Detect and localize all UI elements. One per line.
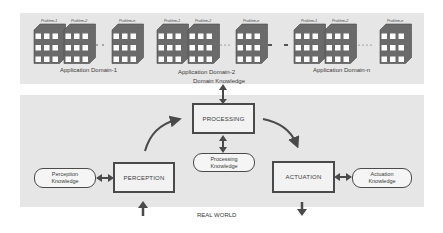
processing-knowledge-line1: Processing	[210, 156, 237, 163]
actuation-knowledge-pill: ActuationKnowledge	[352, 168, 412, 188]
processing-knowledge-line2: Knowledge	[210, 163, 237, 170]
processing-box: PROCESSING	[192, 103, 255, 134]
ellipsis-dots	[96, 44, 371, 46]
processing-to-actuation-arrow-icon	[263, 119, 296, 143]
actuation-knowledge-arrow-icon	[334, 173, 352, 181]
perception-knowledge-pill: PerceptionKnowledge	[34, 168, 96, 188]
actuation-box: ACTUATION	[272, 161, 335, 193]
perception-knowledge-line1: Perception	[51, 171, 78, 178]
domain-knowledge-arrow-icon	[219, 84, 227, 104]
real-world-label: REAL WORLD	[197, 212, 236, 218]
acting-down-arrow-icon	[297, 202, 307, 216]
perception-box: PERCEPTION	[113, 162, 175, 193]
processing-knowledge-pill: ProcessingKnowledge	[193, 153, 255, 172]
actuation-knowledge-line1: Actuation	[368, 171, 395, 178]
perception-knowledge-arrow-icon	[96, 174, 114, 182]
perception-knowledge-line2: Knowledge	[51, 178, 78, 185]
actuation-knowledge-line2: Knowledge	[368, 178, 395, 185]
processing-knowledge-arrow-icon	[219, 135, 227, 153]
sensing-up-arrow-icon	[138, 201, 148, 216]
perception-to-processing-arrow-icon	[145, 120, 176, 151]
